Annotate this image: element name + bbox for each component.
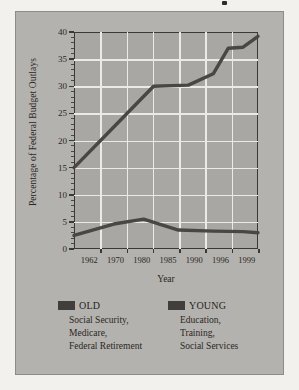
y-tick-minor — [71, 53, 74, 54]
legend-detail-line: Social Security, — [58, 315, 178, 325]
chart-legend: OLD Social Security, Medicare, Federal R… — [16, 298, 285, 374]
y-tick-minor — [71, 80, 74, 81]
y-tick-label: 5 — [63, 217, 68, 227]
y-tick-minor — [71, 232, 74, 233]
y-tick — [69, 194, 74, 196]
y-tick — [69, 58, 74, 60]
x-tick — [100, 249, 102, 253]
y-tick-minor — [71, 178, 74, 179]
plot-wrap: 0510152025303540 19621970198019851990199… — [74, 32, 258, 249]
y-tick-minor — [71, 124, 74, 125]
y-tick-minor — [71, 69, 74, 70]
legend-swatch-young-icon — [168, 301, 185, 310]
y-tick-label: 40 — [58, 27, 67, 37]
figure-panel: Percentage of Federal Budget Outlays 051… — [15, 11, 284, 375]
y-tick — [69, 86, 74, 88]
x-tick-label: 1985 — [160, 255, 177, 265]
y-tick-minor — [71, 91, 74, 92]
x-tick — [153, 249, 155, 253]
y-tick-minor — [71, 42, 74, 43]
legend-detail-line: Social Services — [168, 341, 288, 351]
y-tick-minor — [71, 216, 74, 217]
x-axis-title: Year — [74, 274, 258, 284]
y-tick-minor — [71, 135, 74, 136]
legend-detail-line: Federal Retirement — [58, 341, 178, 351]
legend-title-old: OLD — [79, 300, 100, 311]
y-tick-label: 30 — [58, 81, 67, 91]
y-tick-minor — [71, 200, 74, 201]
y-tick-minor — [71, 48, 74, 49]
y-tick — [69, 31, 74, 33]
x-tick — [232, 249, 234, 253]
legend-title-young: YOUNG — [189, 300, 226, 311]
y-tick-minor — [71, 238, 74, 239]
y-tick-label: 25 — [58, 108, 67, 118]
legend-detail-line: Training, — [168, 328, 288, 338]
legend-detail-line: Medicare, — [58, 328, 178, 338]
y-tick-minor — [71, 205, 74, 206]
y-tick-minor — [71, 173, 74, 174]
x-tick-label: 1990 — [186, 255, 203, 265]
x-tick — [258, 249, 260, 253]
legend-swatch-old-icon — [58, 301, 75, 310]
y-tick-label: 35 — [58, 54, 67, 64]
x-tick-label: 1970 — [107, 255, 124, 265]
y-tick — [69, 140, 74, 142]
y-tick-minor — [71, 156, 74, 157]
x-tick-label: 1999 — [238, 255, 255, 265]
scan-artifact-mark — [222, 1, 227, 5]
legend-detail-line: Education, — [168, 315, 288, 325]
y-tick-minor — [71, 97, 74, 98]
y-tick-minor — [71, 129, 74, 130]
x-tick — [179, 249, 181, 253]
series-line-old — [74, 36, 258, 167]
y-tick-minor — [71, 102, 74, 103]
legend-head-young: YOUNG — [168, 298, 288, 312]
y-tick-minor — [71, 183, 74, 184]
x-tick-label: 1962 — [81, 255, 98, 265]
x-tick — [205, 249, 207, 253]
y-tick-minor — [71, 64, 74, 65]
x-tick — [127, 249, 129, 253]
y-tick-minor — [71, 107, 74, 108]
legend-head-old: OLD — [58, 298, 178, 312]
x-tick-label: 1996 — [212, 255, 229, 265]
legend-entry-young: YOUNG Education, Training, Social Servic… — [168, 298, 288, 351]
y-tick-label: 0 — [63, 244, 68, 254]
y-tick-label: 20 — [58, 136, 67, 146]
chart-block: Percentage of Federal Budget Outlays 051… — [16, 12, 285, 302]
series-line-young — [74, 219, 258, 235]
y-tick-minor — [71, 227, 74, 228]
y-tick — [69, 248, 74, 250]
y-tick-minor — [71, 145, 74, 146]
y-tick-minor — [71, 211, 74, 212]
y-tick-minor — [71, 75, 74, 76]
y-axis-title: Percentage of Federal Budget Outlays — [28, 52, 38, 212]
y-tick — [69, 113, 74, 115]
y-tick — [69, 167, 74, 169]
y-tick-minor — [71, 118, 74, 119]
y-tick-minor — [71, 189, 74, 190]
y-tick-minor — [71, 37, 74, 38]
series-lines — [74, 32, 258, 249]
y-tick-minor — [71, 162, 74, 163]
legend-entry-old: OLD Social Security, Medicare, Federal R… — [58, 298, 178, 351]
x-tick-label: 1980 — [133, 255, 150, 265]
y-tick — [69, 221, 74, 223]
y-tick-label: 15 — [58, 163, 67, 173]
y-tick-minor — [71, 151, 74, 152]
y-tick-label: 10 — [58, 190, 67, 200]
y-tick-minor — [71, 243, 74, 244]
